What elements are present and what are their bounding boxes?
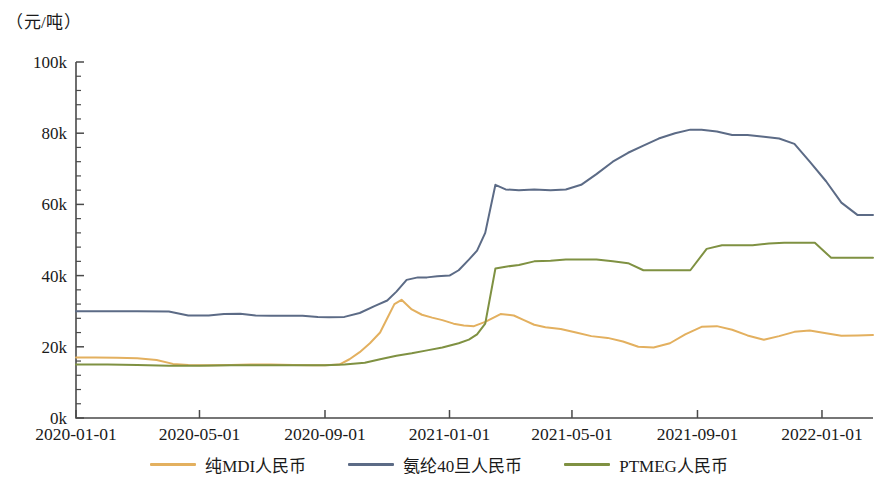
x-tick-label: 2020-05-01 (159, 424, 241, 444)
legend-swatch-spandex (348, 463, 394, 466)
y-tick-label: 40k (42, 267, 68, 286)
legend-label-mdi: 纯MDI人民币 (205, 452, 306, 477)
x-axis-tick-labels: 2020-01-012020-05-012020-09-012021-01-01… (35, 424, 863, 444)
y-tick-label: 100k (33, 53, 68, 72)
y-tick-label: 20k (42, 338, 68, 357)
legend-swatch-ptmeg (564, 463, 610, 466)
legend-label-spandex: 氨纶40旦人民币 (403, 452, 522, 477)
x-tick-label: 2021-01-01 (409, 424, 491, 444)
chart-plot: 0k20k40k60k80k100k 2020-01-012020-05-012… (0, 0, 878, 479)
series-line-1 (76, 130, 873, 318)
legend-item-spandex[interactable]: 氨纶40旦人民币 (348, 452, 522, 477)
series-line-2 (76, 243, 873, 366)
chart-legend: 纯MDI人民币 氨纶40旦人民币 PTMEG人民币 (0, 452, 878, 477)
x-tick-label: 2021-05-01 (531, 424, 613, 444)
x-tick-label: 2022-01-01 (781, 424, 863, 444)
y-axis-tick-labels: 0k20k40k60k80k100k (33, 53, 68, 428)
y-tick-label: 80k (42, 124, 68, 143)
data-series-group (76, 130, 873, 366)
x-tick-label: 2020-09-01 (284, 424, 366, 444)
chart-container: （元/吨） 0k20k40k60k80k100k 2020-01-012020-… (0, 0, 878, 479)
x-tick-label: 2021-09-01 (657, 424, 739, 444)
legend-label-ptmeg: PTMEG人民币 (619, 452, 728, 477)
series-line-0 (76, 300, 873, 366)
legend-item-ptmeg[interactable]: PTMEG人民币 (564, 452, 728, 477)
legend-item-mdi[interactable]: 纯MDI人民币 (150, 452, 306, 477)
x-tick-label: 2020-01-01 (35, 424, 117, 444)
legend-swatch-mdi (150, 463, 196, 466)
y-tick-label: 60k (42, 195, 68, 214)
